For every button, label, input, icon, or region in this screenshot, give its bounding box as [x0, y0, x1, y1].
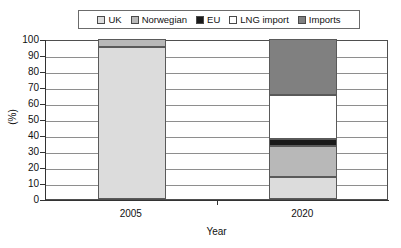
x-axis-tick-label: 2020 — [257, 208, 347, 219]
legend-swatch-icon — [97, 16, 105, 24]
legend-item[interactable]: Norwegian — [131, 15, 187, 25]
legend-item-label: Imports — [309, 15, 341, 25]
legend-swatch-icon — [131, 16, 139, 24]
legend-item-label: LNG import — [240, 15, 289, 25]
y-axis-tick — [40, 88, 45, 89]
legend-item[interactable]: EU — [196, 15, 220, 25]
bar-segment[interactable] — [98, 39, 166, 47]
y-axis-tick-label: 100 — [3, 35, 39, 45]
plot-area — [45, 40, 388, 200]
y-axis-tick-labels: 1009080706050403020100 — [0, 0, 39, 248]
y-axis-tick-label: 80 — [3, 67, 39, 77]
y-axis-tick — [40, 120, 45, 121]
bar-group[interactable] — [269, 39, 337, 199]
y-axis-tick-label: 0 — [3, 195, 39, 205]
y-axis-tick — [40, 184, 45, 185]
y-axis-tick-label: 70 — [3, 83, 39, 93]
bar-segment[interactable] — [269, 39, 337, 95]
y-axis-tick — [40, 152, 45, 153]
legend-swatch-icon — [298, 16, 306, 24]
x-axis-tick — [217, 201, 218, 205]
y-axis-tick-label: 90 — [3, 51, 39, 61]
y-axis-tick — [40, 72, 45, 73]
y-axis-title: (%) — [8, 97, 18, 137]
legend-item-label: Norwegian — [142, 15, 187, 25]
x-axis-tick-label: 2005 — [86, 208, 176, 219]
y-axis-tick — [40, 56, 45, 57]
y-axis-tick — [40, 136, 45, 137]
x-axis-title: Year — [45, 226, 388, 237]
legend-item-label: EU — [207, 15, 220, 25]
chart-legend: UKNorwegianEULNG importImports — [78, 10, 360, 29]
y-axis-tick — [40, 40, 45, 41]
y-axis-line — [45, 40, 46, 201]
bar-segment[interactable] — [269, 95, 337, 139]
bar-segment[interactable] — [269, 177, 337, 199]
y-axis-tick — [40, 168, 45, 169]
stacked-bar-chart: UKNorwegianEULNG importImports 100908070… — [0, 0, 401, 248]
legend-item[interactable]: LNG import — [229, 15, 289, 25]
bar-segment[interactable] — [269, 146, 337, 176]
legend-item[interactable]: Imports — [298, 15, 341, 25]
bar-group[interactable] — [98, 39, 166, 199]
legend-swatch-icon — [196, 16, 204, 24]
legend-swatch-icon — [229, 16, 237, 24]
bar-segment[interactable] — [98, 47, 166, 199]
y-axis-tick — [40, 104, 45, 105]
y-axis-tick-label: 30 — [3, 147, 39, 157]
legend-item-label: UK — [108, 15, 121, 25]
legend-item[interactable]: UK — [97, 15, 121, 25]
y-axis-tick — [40, 200, 45, 201]
y-axis-tick-label: 20 — [3, 163, 39, 173]
y-axis-tick-label: 10 — [3, 179, 39, 189]
bar-segment[interactable] — [269, 139, 337, 146]
